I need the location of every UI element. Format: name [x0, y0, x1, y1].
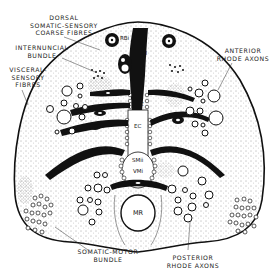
label-ji: JI	[144, 50, 147, 56]
label-visceral-sensory: VISCERAL- SENSORY FIBRES	[6, 66, 50, 89]
label-mr: MR	[133, 210, 143, 216]
label-rbii: RBii	[133, 65, 144, 71]
label-internuncial-bundle: INTERNUNCIAL BUNDLE	[10, 44, 74, 59]
label-posterior-rhode-axons: POSTERIOR RHODE AXONS	[155, 254, 231, 269]
cord-section-drawing	[0, 0, 276, 277]
label-smii: SMii	[132, 157, 143, 163]
label-somatic-motor-bundle: SOMATIC-MOTOR BUNDLE	[75, 248, 141, 263]
label-mc: MC	[135, 101, 144, 107]
label-vmi: VMi	[133, 168, 143, 174]
label-dorsal-somatic-sensory: DORSAL SOMATIC-SENSORY COARSE FIBRES	[18, 14, 110, 37]
label-rbi: RBi	[120, 35, 129, 41]
spinal-cord-diagram: DORSAL SOMATIC-SENSORY COARSE FIBRES INT…	[0, 0, 276, 277]
label-ec: EC	[134, 123, 141, 129]
label-anterior-rhode-axons: ANTERIOR RHODE AXONS	[210, 47, 276, 62]
